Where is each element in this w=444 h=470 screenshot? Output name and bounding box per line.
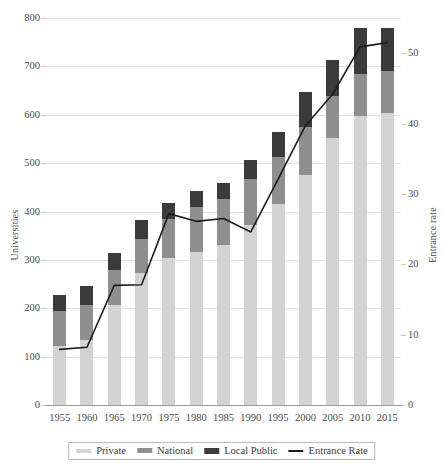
x-axis-tick-label-1955: 1955 [49,412,70,423]
legend-item-label: Entrance Rate [309,445,368,456]
y-axis-left-tick-label: 300 [24,255,40,266]
x-axis-tick-label-1995: 1995 [268,412,289,423]
y-axis-left-tick-label: 100 [24,351,40,362]
legend-item-label: Local Public [224,445,277,456]
x-axis-tick-label-1975: 1975 [158,412,179,423]
x-axis-tick-label-1960: 1960 [76,412,97,423]
x-axis-tick-label-2000: 2000 [295,412,316,423]
legend-item-private[interactable]: Private [76,445,126,456]
y-axis-right-tick-label: 40 [408,118,419,129]
chart-container: Universities Entrance rate 0100200300400… [0,0,444,470]
legend-item-local-public[interactable]: Local Public [204,445,277,456]
legend-item-national[interactable]: National [137,445,193,456]
y-axis-right-tick-mark [401,335,406,336]
legend-swatch-national [137,448,152,453]
legend-item-label: Private [96,445,126,456]
y-axis-left-tick-mark [41,405,46,406]
x-axis-tick-label-2005: 2005 [322,412,343,423]
x-axis-tick-label-1985: 1985 [213,412,234,423]
legend-item-entrance-rate[interactable]: Entrance Rate [289,445,368,456]
y-axis-right-tick-label: 50 [408,48,419,59]
x-axis-tick-label-2015: 2015 [377,412,398,423]
x-axis-tick-label-1965: 1965 [104,412,125,423]
y-axis-left-tick-label: 400 [24,206,40,217]
gridline [46,405,401,406]
y-axis-left-title: Universities [9,195,20,275]
y-axis-right-title: Entrance rate [427,195,438,275]
legend-swatch-local-public [204,448,219,454]
x-axis-tick-label-1980: 1980 [186,412,207,423]
y-axis-right-tick-mark [401,124,406,125]
y-axis-right-tick-mark [401,264,406,265]
legend-item-label: National [157,445,193,456]
x-axis-tick-label-1990: 1990 [240,412,261,423]
y-axis-left-tick-label: 800 [24,13,40,24]
x-axis-tick-label-2010: 2010 [350,412,371,423]
entrance-rate-line [46,18,401,405]
x-axis-tick-label-1970: 1970 [131,412,152,423]
legend-swatch-private [76,449,91,453]
y-axis-right-tick-mark [401,194,406,195]
y-axis-left-tick-label: 700 [24,61,40,72]
chart-legend: PrivateNationalLocal PublicEntrance Rate [68,442,375,460]
plot-area: 0100200300400500600700800 01020304050 19… [46,18,401,405]
y-axis-left-tick-label: 0 [35,400,40,411]
y-axis-right-tick-label: 10 [408,329,419,340]
y-axis-left-tick-label: 200 [24,303,40,314]
y-axis-right-tick-label: 20 [408,259,419,270]
y-axis-left-tick-label: 500 [24,158,40,169]
y-axis-right-tick-label: 0 [408,400,413,411]
y-axis-right-tick-mark [401,53,406,54]
y-axis-right-tick-mark [401,405,406,406]
y-axis-right-tick-label: 30 [408,189,419,200]
y-axis-left-tick-label: 600 [24,110,40,121]
legend-swatch-entrance-rate [289,450,304,452]
